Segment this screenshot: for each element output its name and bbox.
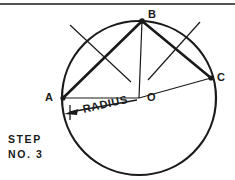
construction-figure: A B C O RADIUS STEP NO. 3 xyxy=(0,0,235,180)
step-caption-line-1: STEP xyxy=(8,132,43,147)
radius-line-o-b xyxy=(139,21,142,98)
point-marker-b xyxy=(139,18,145,24)
point-label-o: O xyxy=(147,92,156,103)
radius-callout-arrowhead xyxy=(64,109,78,115)
point-marker-a xyxy=(60,95,65,100)
point-label-c: C xyxy=(217,72,225,83)
construction-line-right xyxy=(148,22,200,80)
point-marker-c xyxy=(208,75,213,80)
step-caption: STEP NO. 3 xyxy=(8,132,43,162)
point-label-a: A xyxy=(45,92,53,103)
step-caption-line-2: NO. 3 xyxy=(8,147,43,162)
point-label-b: B xyxy=(148,9,156,20)
construction-line-left xyxy=(70,25,131,82)
chord-line-a-b xyxy=(63,21,142,98)
